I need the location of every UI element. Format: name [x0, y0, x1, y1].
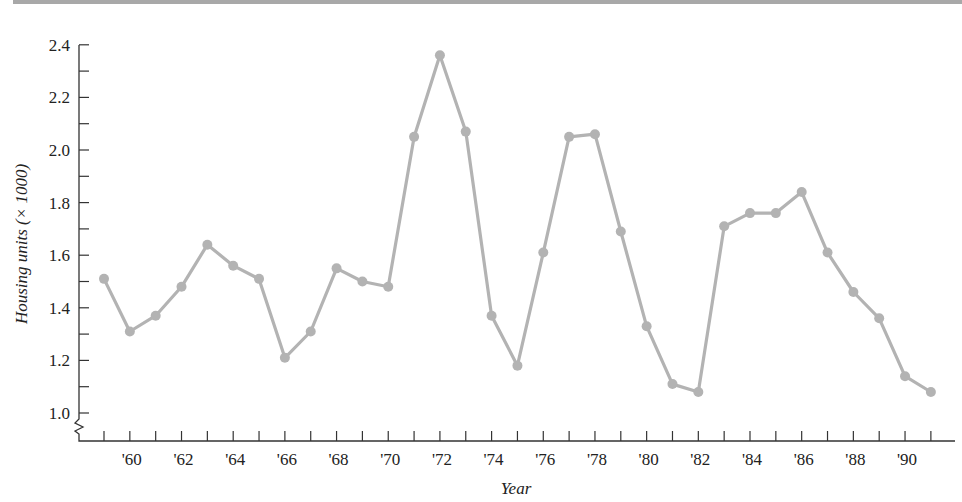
data-point-marker: [99, 274, 109, 284]
x-tick-label: '84: [742, 450, 763, 469]
data-point-marker: [616, 227, 626, 237]
x-tick-label: '82: [690, 450, 710, 469]
y-tick-label: 1.4: [49, 299, 71, 318]
data-point-marker: [254, 274, 264, 284]
data-point-marker: [461, 127, 471, 137]
data-point-marker: [590, 129, 600, 139]
data-point-marker: [228, 261, 238, 271]
data-point-marker: [280, 353, 290, 363]
y-axis-title: Housing units (× 1000): [12, 164, 31, 326]
data-point-marker: [642, 321, 652, 331]
data-point-marker: [771, 208, 781, 218]
x-tick-label: '68: [329, 450, 349, 469]
y-tick-label: 1.6: [49, 246, 70, 265]
x-tick-label: '72: [432, 450, 452, 469]
x-tick-label: '78: [587, 450, 607, 469]
y-tick-label: 2.0: [49, 141, 70, 160]
x-tick-label: '66: [277, 450, 297, 469]
data-point-marker: [848, 287, 858, 297]
y-axis-ticks: 1.01.21.41.61.82.02.22.4: [49, 36, 89, 423]
data-point-marker: [202, 240, 212, 250]
x-tick-label: '70: [380, 450, 400, 469]
data-point-marker: [306, 326, 316, 336]
data-point-marker: [177, 282, 187, 292]
x-tick-label: '90: [897, 450, 917, 469]
x-tick-label: '86: [794, 450, 814, 469]
y-tick-label: 1.2: [49, 351, 70, 370]
data-point-marker: [719, 221, 729, 231]
data-point-marker: [512, 361, 522, 371]
data-point-marker: [564, 132, 574, 142]
data-point-marker: [926, 387, 936, 397]
x-tick-label: '88: [845, 450, 865, 469]
data-point-marker: [538, 248, 548, 258]
x-tick-label: '80: [639, 450, 659, 469]
data-point-marker: [125, 326, 135, 336]
y-tick-label: 1.0: [49, 404, 70, 423]
data-point-marker: [151, 311, 161, 321]
line-chart: 1.01.21.41.61.82.02.22.4 '60'62'64'66'68…: [0, 0, 962, 502]
x-tick-label: '64: [225, 450, 246, 469]
data-point-marker: [874, 313, 884, 323]
y-tick-label: 2.2: [49, 88, 70, 107]
data-point-marker: [667, 379, 677, 389]
x-tick-label: '76: [535, 450, 555, 469]
data-point-marker: [693, 387, 703, 397]
data-point-marker: [797, 187, 807, 197]
x-tick-label: '60: [122, 450, 142, 469]
data-point-marker: [487, 311, 497, 321]
data-point-marker: [332, 263, 342, 273]
x-tick-label: '74: [484, 450, 505, 469]
x-axis-title: Year: [501, 479, 532, 498]
data-point-marker: [435, 50, 445, 60]
data-point-marker: [823, 248, 833, 258]
x-tick-label: '62: [173, 450, 193, 469]
x-axis-ticks: '60'62'64'66'68'70'72'74'76'78'80'82'84'…: [104, 431, 931, 469]
data-point-marker: [357, 277, 367, 287]
y-tick-label: 1.8: [49, 194, 70, 213]
data-point-marker: [900, 371, 910, 381]
data-series: [99, 50, 936, 397]
series-line: [104, 55, 931, 392]
data-point-marker: [383, 282, 393, 292]
y-tick-label: 2.4: [49, 36, 71, 55]
data-point-marker: [745, 208, 755, 218]
data-point-marker: [409, 132, 419, 142]
